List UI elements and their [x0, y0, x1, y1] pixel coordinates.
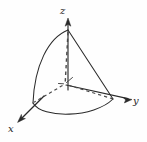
origin-tick-mark [67, 78, 73, 83]
solid-base-arc [33, 99, 113, 114]
three-dimensional-solid-figure: z y x [0, 0, 147, 142]
z-axis-label: z [60, 6, 65, 16]
solid-outline-group [33, 30, 113, 114]
x-axis-label: x [8, 124, 14, 134]
dashed-radius-left [34, 86, 63, 103]
y-axis-label: y [133, 96, 139, 106]
y-axis-arrowhead [123, 98, 132, 103]
solid-right-straight-edge [68, 30, 113, 99]
x-axis-line [21, 96, 44, 119]
figure-canvas [0, 0, 147, 142]
axes-group [18, 18, 132, 122]
hidden-construction-lines [34, 32, 112, 102]
